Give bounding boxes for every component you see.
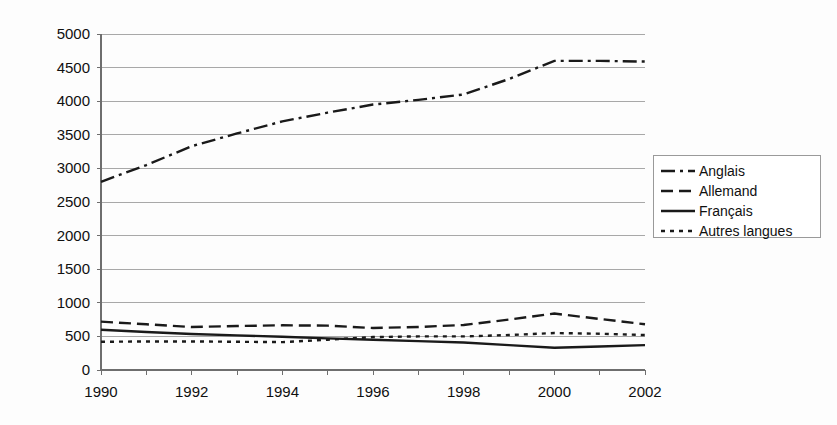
data-series-group bbox=[101, 61, 645, 348]
x-axis-label-1994: 1994 bbox=[266, 383, 299, 400]
x-axis-label-1992: 1992 bbox=[175, 383, 208, 400]
legend-label-autres-langues: Autres langues bbox=[699, 223, 792, 239]
y-axis-tick-labels: 0500100015002000250030003500400045005000 bbox=[57, 25, 90, 378]
legend-label-anglais: Anglais bbox=[699, 163, 745, 179]
y-axis-label-1500: 1500 bbox=[57, 260, 90, 277]
series-line-allemand bbox=[101, 314, 645, 328]
y-axis-label-500: 500 bbox=[65, 327, 90, 344]
y-axis-label-2000: 2000 bbox=[57, 227, 90, 244]
y-axis-label-4000: 4000 bbox=[57, 92, 90, 109]
line-chart: 0500100015002000250030003500400045005000… bbox=[0, 0, 837, 425]
y-axis-label-2500: 2500 bbox=[57, 193, 90, 210]
legend-label-fran-ais: Français bbox=[699, 203, 753, 219]
x-axis-label-1990: 1990 bbox=[84, 383, 117, 400]
x-axis-label-1998: 1998 bbox=[447, 383, 480, 400]
y-axis-label-1000: 1000 bbox=[57, 294, 90, 311]
chart-legend: AnglaisAllemandFrançaisAutres langues bbox=[653, 155, 820, 239]
legend-label-allemand: Allemand bbox=[699, 183, 757, 199]
gridlines-group bbox=[101, 34, 645, 370]
tick-marks-group bbox=[97, 34, 645, 375]
x-axis-label-1996: 1996 bbox=[356, 383, 389, 400]
x-axis-label-2000: 2000 bbox=[538, 383, 571, 400]
x-axis-label-2002: 2002 bbox=[628, 383, 661, 400]
chart-canvas: 0500100015002000250030003500400045005000… bbox=[0, 0, 837, 425]
series-line-anglais bbox=[101, 61, 645, 182]
y-axis-label-3500: 3500 bbox=[57, 126, 90, 143]
y-axis-label-5000: 5000 bbox=[57, 25, 90, 42]
y-axis-label-0: 0 bbox=[82, 361, 90, 378]
y-axis-label-4500: 4500 bbox=[57, 59, 90, 76]
y-axis-label-3000: 3000 bbox=[57, 159, 90, 176]
x-axis-tick-labels: 1990199219941996199820002002 bbox=[84, 383, 661, 400]
